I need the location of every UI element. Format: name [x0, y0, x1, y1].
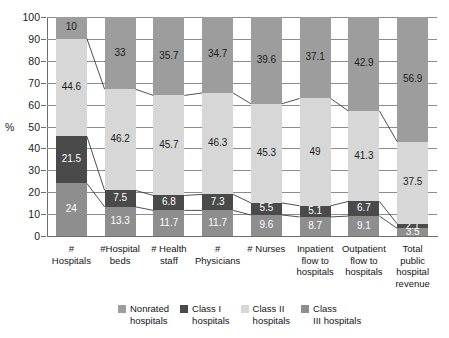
- bar-segment-value-label: 39.6: [257, 55, 276, 65]
- bar-segment-value-label: 46.2: [110, 134, 129, 144]
- y-axis-tick-mark: [41, 127, 46, 128]
- bar-segment-value-label: 5.5: [259, 203, 273, 213]
- bar-segment-value-label: 33: [115, 48, 126, 58]
- x-axis-category-label-line: revenue: [384, 278, 441, 290]
- bar-column: 9.16.741.342.9: [348, 17, 379, 236]
- legend-label: Class IIhospitals: [253, 303, 291, 326]
- bar-segment-value-label: 41.3: [354, 151, 373, 161]
- y-axis-tick-label: 20: [0, 186, 40, 198]
- bar-segment-value-label: 5.1: [308, 206, 322, 216]
- bar-segment-value-label: 46.3: [208, 138, 227, 148]
- y-axis-tick-label: 0: [0, 230, 40, 242]
- bar-column: 11.77.346.334.7: [202, 17, 233, 236]
- bar-segment-value-label: 7.3: [211, 197, 225, 207]
- y-axis-title: %: [5, 121, 14, 133]
- x-axis-category-label-line: public: [384, 255, 441, 267]
- legend-swatch-icon: [180, 305, 188, 313]
- bar-segment-value-label: 37.5: [403, 177, 422, 187]
- bar-segment-value-label: 6.7: [357, 203, 371, 213]
- legend-swatch-icon: [241, 305, 249, 313]
- bar-segment-value-label: 13.3: [110, 216, 129, 226]
- y-axis-tick-mark: [41, 83, 46, 84]
- bar-segment-value-label: 42.9: [354, 58, 373, 68]
- bar-segment-value-label: 49: [310, 147, 321, 157]
- y-axis-tick-mark: [41, 148, 46, 149]
- legend-item[interactable]: Class Ihospitals: [180, 303, 230, 326]
- y-axis-tick-mark: [41, 192, 46, 193]
- bar-column: 8.75.14937.1: [300, 17, 331, 236]
- bar-column: 9.65.545.339.6: [251, 17, 282, 236]
- y-axis-tick-mark: [41, 236, 46, 237]
- y-axis-tick-mark: [41, 61, 46, 62]
- bar-column: 3.52.137.556.9: [397, 17, 428, 236]
- x-axis-line: [47, 236, 438, 237]
- bar-segment-value-label: 24: [66, 204, 77, 214]
- x-axis-category-label-line: Physicians: [189, 255, 246, 267]
- bar-segment-value-label: 56.9: [403, 74, 422, 84]
- y-axis-tick-label: 10: [0, 208, 40, 220]
- bar-segment-value-label: 45.3: [257, 148, 276, 158]
- bar-segment-value-label: 35.7: [159, 51, 178, 61]
- stacked-bar-chart: 0102030405060708090100 % 2421.544.61013.…: [0, 0, 449, 338]
- legend-label: Class Ihospitals: [192, 303, 230, 326]
- bar-segment-value-label: 11.7: [208, 218, 227, 228]
- legend-swatch-icon: [118, 305, 126, 313]
- y-axis-tick-mark: [41, 17, 46, 18]
- bar-segment-value-label: 11.7: [160, 218, 179, 228]
- bar-column: 2421.544.610: [56, 17, 87, 236]
- legend-swatch-icon: [301, 305, 309, 313]
- y-axis-tick-mark: [41, 39, 46, 40]
- y-axis-tick-label: 90: [0, 33, 40, 45]
- y-axis-tick-mark: [41, 214, 46, 215]
- legend-item[interactable]: Class IIhospitals: [241, 303, 291, 326]
- legend-item[interactable]: ClassIII hospitals: [301, 303, 361, 326]
- legend-item[interactable]: Nonratedhospitals: [118, 303, 169, 326]
- bar-segment-value-label: 8.7: [308, 221, 322, 231]
- plot-area: 2421.544.61013.37.546.23311.76.845.735.7…: [47, 17, 437, 236]
- y-axis-tick-mark: [41, 170, 46, 171]
- bar-segment-value-label: 34.7: [208, 49, 227, 59]
- bar-column: 11.76.845.735.7: [153, 17, 184, 236]
- y-axis-tick-label: 40: [0, 142, 40, 154]
- x-axis-category-label: Totalpublichospitalrevenue: [384, 243, 441, 289]
- bar-segment-value-label: 9.6: [259, 220, 273, 230]
- y-axis-tick-label: 30: [0, 164, 40, 176]
- x-axis-category-label-line: hospital: [384, 266, 441, 278]
- chart-legend: NonratedhospitalsClass IhospitalsClass I…: [118, 303, 361, 326]
- bar-segment-value-label: 10: [66, 22, 77, 32]
- y-axis-tick-label: 70: [0, 77, 40, 89]
- bar-segment-value-label: 44.6: [62, 82, 81, 92]
- legend-label: ClassIII hospitals: [313, 303, 361, 326]
- bar-segment-value-label: 9.1: [357, 221, 371, 231]
- bar-segment-value-label: 7.5: [113, 193, 127, 203]
- bar-column: 13.37.546.233: [105, 17, 136, 236]
- bar-segment-value-label: 6.8: [162, 197, 176, 207]
- y-axis-tick-label: 80: [0, 55, 40, 67]
- y-axis-tick-label: 60: [0, 99, 40, 111]
- y-axis-tick-mark: [41, 105, 46, 106]
- y-axis-tick-label: 100: [0, 11, 40, 23]
- bar-segment-value-label: 37.1: [305, 52, 324, 62]
- bar-segment-value-label: 45.7: [159, 140, 178, 150]
- legend-label: Nonratedhospitals: [130, 303, 169, 326]
- x-axis-category-label-line: Total: [384, 243, 441, 255]
- bar-segment-value-label: 21.5: [62, 154, 81, 164]
